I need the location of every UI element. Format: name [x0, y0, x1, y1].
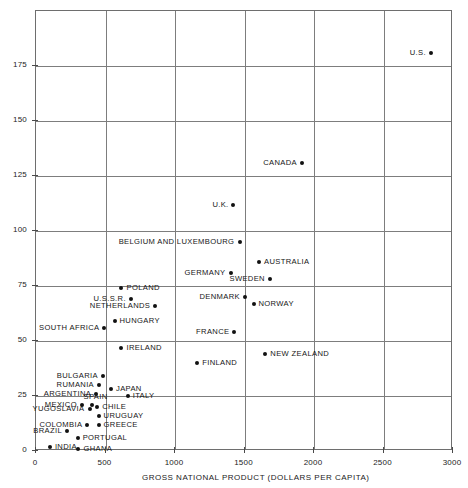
data-point: [153, 304, 157, 308]
y-tick-label: 175: [3, 60, 27, 69]
data-point-label: GHANA: [83, 445, 112, 453]
data-point: [113, 319, 117, 323]
x-axis-title: GROSS NATIONAL PRODUCT (DOLLARS PER CAPI…: [142, 473, 369, 482]
y-tick-label: 50: [3, 335, 27, 344]
data-point-label: PORTUGAL: [83, 434, 127, 442]
gridline-horizontal: [36, 341, 451, 342]
data-point-label: NEW ZEALAND: [270, 350, 329, 358]
data-point: [263, 352, 267, 356]
data-point-label: BULGARIA: [57, 372, 98, 380]
gridline-vertical: [106, 11, 107, 449]
y-tick-label: 0: [3, 445, 27, 454]
y-tick-label: 150: [3, 115, 27, 124]
data-point: [48, 445, 52, 449]
x-tick-mark: [105, 447, 106, 453]
data-point: [231, 203, 235, 207]
data-point: [97, 383, 101, 387]
x-tick-label: 3000: [432, 458, 468, 467]
data-point-label: DENMARK: [200, 293, 240, 301]
x-tick-label: 2500: [363, 458, 403, 467]
data-point: [232, 330, 236, 334]
data-point: [126, 394, 130, 398]
data-point-label: FINLAND: [202, 359, 237, 367]
data-point-label: IRELAND: [126, 344, 161, 352]
y-tick-mark: [32, 230, 38, 231]
x-tick-mark: [313, 447, 314, 453]
y-tick-mark: [32, 340, 38, 341]
y-tick-label: 125: [3, 170, 27, 179]
y-tick-mark: [32, 285, 38, 286]
data-point-label: INDIA: [55, 443, 77, 451]
data-point: [85, 423, 89, 427]
x-tick-mark: [35, 447, 36, 453]
data-point: [429, 51, 433, 55]
scatter-chart: U.S.CANADAU.K.BELGIUM AND LUXEMBOURGAUST…: [0, 0, 468, 488]
data-point-label: YUGOSLAVIA: [33, 405, 85, 413]
data-point: [76, 447, 80, 451]
x-tick-mark: [452, 447, 453, 453]
data-point-label: POLAND: [126, 284, 159, 292]
data-point: [97, 414, 101, 418]
data-point-label: CANADA: [263, 159, 297, 167]
y-tick-mark: [32, 120, 38, 121]
data-point-label: AUSTRALIA: [264, 258, 309, 266]
data-point-label: NETHERLANDS: [90, 302, 150, 310]
y-tick-mark: [32, 395, 38, 396]
data-point: [119, 286, 123, 290]
gridline-horizontal: [36, 176, 451, 177]
data-point: [101, 374, 105, 378]
gridline-vertical: [314, 11, 315, 449]
data-point-label: FRANCE: [196, 328, 229, 336]
data-point-label: GREECE: [104, 421, 138, 429]
gridline-vertical: [175, 11, 176, 449]
data-point: [243, 295, 247, 299]
data-point: [268, 277, 272, 281]
x-tick-label: 500: [85, 458, 125, 467]
gridline-vertical: [245, 11, 246, 449]
data-point: [119, 346, 123, 350]
data-point: [97, 423, 101, 427]
data-point-label: U.S.: [410, 49, 426, 57]
data-point: [252, 302, 256, 306]
gridline-horizontal: [36, 231, 451, 232]
data-point: [300, 161, 304, 165]
x-tick-mark: [244, 447, 245, 453]
x-tick-mark: [174, 447, 175, 453]
data-point-label: HUNGARY: [120, 317, 160, 325]
y-tick-mark: [32, 65, 38, 66]
x-tick-mark: [383, 447, 384, 453]
data-point: [95, 405, 99, 409]
y-tick-mark: [32, 175, 38, 176]
data-point: [76, 436, 80, 440]
data-point-label: U.K.: [212, 201, 228, 209]
data-point: [102, 326, 106, 330]
gridline-horizontal: [36, 286, 451, 287]
data-point-label: CHILE: [102, 403, 126, 411]
plot-area: U.S.CANADAU.K.BELGIUM AND LUXEMBOURGAUST…: [35, 10, 452, 450]
data-point: [88, 407, 92, 411]
gridline-horizontal: [36, 121, 451, 122]
x-tick-label: 2000: [293, 458, 333, 467]
y-tick-label: 75: [3, 280, 27, 289]
gridline-vertical: [384, 11, 385, 449]
data-point: [238, 240, 242, 244]
data-point-label: RUMANIA: [57, 381, 94, 389]
x-tick-label: 1500: [224, 458, 264, 467]
data-point-label: NORWAY: [259, 300, 294, 308]
gridline-horizontal: [36, 66, 451, 67]
data-point: [65, 429, 69, 433]
data-point: [257, 260, 261, 264]
x-tick-label: 0: [15, 458, 55, 467]
data-point-label: SWEDEN: [230, 275, 265, 283]
data-point-label: BELGIUM AND LUXEMBOURG: [119, 238, 235, 246]
data-point: [109, 387, 113, 391]
data-point: [195, 361, 199, 365]
data-point-label: GERMANY: [185, 269, 226, 277]
data-point-label: SPAIN: [84, 393, 108, 401]
data-point-label: BRAZIL: [33, 427, 62, 435]
y-tick-label: 100: [3, 225, 27, 234]
data-point-label: ITALY: [133, 392, 155, 400]
y-tick-label: 25: [3, 390, 27, 399]
data-point-label: SOUTH AFRICA: [39, 324, 99, 332]
data-point-label: URUGUAY: [104, 412, 144, 420]
